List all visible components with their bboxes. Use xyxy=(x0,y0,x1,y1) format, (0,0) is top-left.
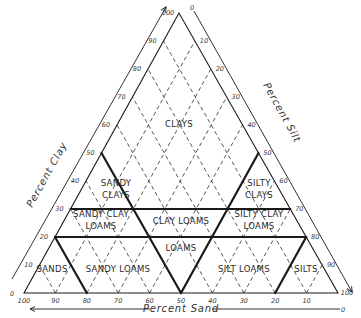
sand-tick: 100 xyxy=(18,297,30,305)
clay-tick: 60 xyxy=(102,121,110,129)
soil-texture-triangle: 1020304050607080901001020304050607080901… xyxy=(0,0,361,318)
silt-tick: 60 xyxy=(279,177,287,185)
region-labels: CLAYSSANDYCLAYSSILTYCLAYSSANDY CLAYLOAMS… xyxy=(36,119,317,274)
clay-tick: 70 xyxy=(117,93,125,101)
silt-axis-arrow xyxy=(194,11,352,292)
clay-tick: 90 xyxy=(148,37,156,45)
silt-tick: 10 xyxy=(200,37,208,45)
silt-tick: 90 xyxy=(327,261,335,269)
silt-axis-title: Percent Silt xyxy=(261,81,303,145)
triangle-diagram: 1020304050607080901001020304050607080901… xyxy=(0,0,361,318)
sand-tick: 10 xyxy=(302,297,310,305)
region-label-loams: LOAMS xyxy=(165,243,196,253)
region-label-sandy-loams: SANDY LOAMS xyxy=(86,264,151,274)
sand-tick: 90 xyxy=(51,297,59,305)
region-label-sandy-clays: SANDY xyxy=(101,178,132,188)
region-label-clays: CLAYS xyxy=(165,119,193,129)
silt-tick: 100 xyxy=(341,289,353,297)
region-label-silt-loams: SILT LOAMS xyxy=(218,264,270,274)
silt-tick: 80 xyxy=(311,233,319,241)
sand-tick: 70 xyxy=(114,297,122,305)
region-label-sandy-clay-loams: SANDY CLAY xyxy=(73,209,129,219)
silt-tick: 40 xyxy=(247,121,255,129)
sand-tick: 80 xyxy=(83,297,91,305)
region-label-sandy-clay-loams: LOAMS xyxy=(85,221,116,231)
clay-tick: 40 xyxy=(71,177,79,185)
region-label-sandy-clays: CLAYS xyxy=(102,190,130,200)
sand-tick: 20 xyxy=(271,297,279,305)
region-label-sands: SANDS xyxy=(36,264,67,274)
silt-tick: 50 xyxy=(263,149,271,157)
clay-zero: 0 xyxy=(10,290,14,298)
region-label-silty-clays: SILTY xyxy=(247,178,271,188)
silt-tick: 30 xyxy=(232,93,240,101)
dashed-grid xyxy=(40,41,323,293)
silt-tick: 70 xyxy=(295,205,303,213)
region-label-silty-clay-loams: SILTY CLAY xyxy=(235,209,284,219)
clay-tick: 20 xyxy=(40,233,48,241)
clay-axis-arrow xyxy=(12,7,166,279)
sand-axis-title: Percent Sand xyxy=(143,303,219,314)
silt-zero: 0 xyxy=(190,4,194,12)
sand-zero: 0 xyxy=(341,306,345,314)
clay-tick: 100 xyxy=(162,9,174,17)
clay-axis-title: Percent Clay xyxy=(24,140,69,209)
silt-tick: 20 xyxy=(216,65,224,73)
region-label-silty-clays: CLAYS xyxy=(245,190,273,200)
grid-line-sand xyxy=(164,41,307,293)
region-label-silts: SILTS xyxy=(294,264,318,274)
clay-tick: 50 xyxy=(86,149,94,157)
clay-tick: 80 xyxy=(133,65,141,73)
region-label-clay-loams: CLAY LOAMS xyxy=(153,216,209,226)
clay-tick: 30 xyxy=(55,205,63,213)
sand-tick: 30 xyxy=(240,297,248,305)
clay-tick: 10 xyxy=(24,261,32,269)
region-label-silty-clay-loams: LOAMS xyxy=(243,221,274,231)
